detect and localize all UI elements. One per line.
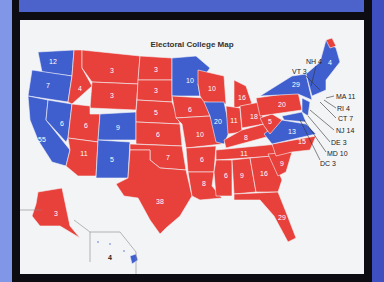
- state-fl[interactable]: [234, 192, 296, 242]
- svg-text:16: 16: [260, 170, 268, 177]
- svg-text:CT 7: CT 7: [338, 115, 353, 122]
- svg-text:15: 15: [298, 138, 306, 145]
- svg-text:6: 6: [188, 106, 192, 113]
- svg-text:10: 10: [186, 77, 194, 84]
- svg-text:5: 5: [268, 118, 272, 125]
- svg-text:5: 5: [110, 156, 114, 163]
- svg-text:3: 3: [110, 67, 114, 74]
- svg-text:3: 3: [154, 66, 158, 73]
- us-map: 12 7 55 6 4 3 3 6 9 11 5 3 3 5 6 7 38 10…: [20, 20, 364, 274]
- svg-text:6: 6: [200, 156, 204, 163]
- svg-text:6: 6: [224, 172, 228, 179]
- svg-text:20: 20: [278, 101, 286, 108]
- state-ms[interactable]: [214, 160, 232, 196]
- svg-text:10: 10: [208, 85, 216, 92]
- svg-text:3: 3: [54, 210, 58, 217]
- svg-text:29: 29: [278, 214, 286, 221]
- svg-text:7: 7: [46, 82, 50, 89]
- svg-text:29: 29: [292, 81, 300, 88]
- svg-text:9: 9: [116, 124, 120, 131]
- svg-text:6: 6: [156, 131, 160, 138]
- svg-text:20: 20: [214, 118, 222, 125]
- state-nj[interactable]: [302, 98, 310, 116]
- top-band: [19, 0, 364, 12]
- svg-text:10: 10: [196, 131, 204, 138]
- svg-text:6: 6: [84, 122, 88, 129]
- svg-text:MD 10: MD 10: [327, 150, 348, 157]
- background-left: [0, 0, 12, 282]
- svg-text:13: 13: [288, 128, 296, 135]
- state-hi-island[interactable]: [97, 241, 99, 243]
- state-wy[interactable]: [90, 82, 138, 110]
- map-card: Electoral College Map: [20, 20, 364, 274]
- background-right: [372, 0, 384, 282]
- svg-text:11: 11: [80, 150, 87, 157]
- svg-text:38: 38: [156, 198, 164, 205]
- svg-text:4: 4: [328, 59, 332, 66]
- svg-text:8: 8: [244, 134, 248, 141]
- svg-text:9: 9: [240, 172, 244, 179]
- svg-text:VT 3: VT 3: [292, 68, 307, 75]
- svg-text:4: 4: [108, 254, 112, 261]
- svg-text:8: 8: [202, 180, 206, 187]
- svg-text:11: 11: [230, 117, 237, 124]
- svg-text:RI 4: RI 4: [337, 105, 350, 112]
- svg-text:9: 9: [280, 160, 284, 167]
- svg-text:6: 6: [60, 120, 64, 127]
- state-new-england[interactable]: [306, 40, 340, 96]
- svg-text:MA 11: MA 11: [336, 93, 355, 100]
- svg-text:3: 3: [110, 92, 114, 99]
- svg-text:4: 4: [78, 85, 82, 92]
- svg-text:7: 7: [166, 154, 170, 161]
- svg-text:16: 16: [238, 94, 246, 101]
- svg-text:11: 11: [240, 150, 247, 157]
- svg-text:18: 18: [250, 113, 258, 120]
- state-az[interactable]: [66, 138, 98, 176]
- svg-text:5: 5: [154, 109, 158, 116]
- svg-text:3: 3: [154, 87, 158, 94]
- svg-text:DC 3: DC 3: [320, 160, 336, 167]
- svg-text:NJ 14: NJ 14: [336, 127, 354, 134]
- svg-text:12: 12: [49, 58, 57, 65]
- svg-text:DE 3: DE 3: [331, 139, 347, 146]
- svg-text:55: 55: [38, 136, 46, 143]
- svg-text:NH 4: NH 4: [306, 58, 322, 65]
- state-hi[interactable]: [130, 254, 138, 264]
